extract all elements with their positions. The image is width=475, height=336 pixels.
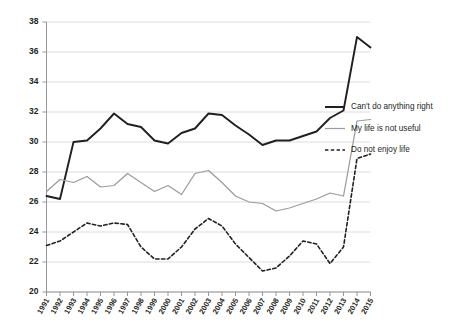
- y-axis-tick-label: 24: [29, 226, 39, 236]
- x-axis-tick-label: 2006: [238, 297, 254, 316]
- x-axis-tick-label: 2007: [251, 297, 267, 316]
- x-axis-tick-label: 2008: [265, 297, 281, 316]
- x-axis-tick-label: 2010: [292, 297, 308, 316]
- y-axis-tick-labels: 20222426283032343638: [29, 16, 39, 296]
- x-axis-tick-label: 1997: [116, 297, 132, 316]
- x-axis-tick-label: 1992: [49, 297, 65, 316]
- x-axis-tick-label: 2009: [278, 297, 294, 316]
- x-axis-tick-label: 1998: [130, 297, 146, 316]
- x-axis-tick-label: 2002: [184, 297, 200, 316]
- x-axis-tick-label: 1994: [76, 296, 93, 316]
- y-axis-tick-label: 20: [29, 286, 39, 296]
- y-tick-marks: [43, 22, 47, 292]
- x-axis-tick-label: 2014: [346, 296, 363, 316]
- legend-label-2[interactable]: Do not enjoy life: [351, 145, 410, 154]
- x-axis-tick-label: 2000: [157, 297, 173, 316]
- x-axis-tick-label: 1996: [103, 297, 119, 316]
- x-axis-tick-label: 2001: [170, 296, 187, 316]
- y-axis-tick-label: 30: [29, 136, 39, 146]
- y-axis-tick-label: 38: [29, 16, 39, 26]
- x-axis-tick-label: 2012: [319, 297, 335, 316]
- x-axis-tick-label: 2003: [197, 297, 213, 316]
- x-axis-tick-label: 2004: [211, 296, 228, 316]
- x-tick-marks: [47, 292, 371, 296]
- x-axis-tick-label: 1993: [62, 297, 78, 316]
- y-axis-tick-label: 22: [29, 256, 39, 266]
- y-axis-tick-label: 34: [29, 76, 39, 86]
- legend-label-0[interactable]: Can't do anything right: [351, 102, 433, 111]
- series-line-2: [47, 154, 371, 271]
- x-axis-tick-label: 1995: [89, 296, 106, 316]
- y-axis-tick-label: 32: [29, 106, 39, 116]
- x-axis-tick-label: 2015: [359, 296, 376, 316]
- x-axis-tick-label: 1999: [143, 297, 159, 316]
- y-axis-tick-label: 26: [29, 196, 39, 206]
- x-axis-tick-label: 2005: [224, 296, 241, 316]
- chart-container: 20222426283032343638 1991199219931994199…: [0, 0, 475, 336]
- data-series-group: [47, 37, 371, 271]
- x-axis-tick-label: 1991: [35, 296, 52, 316]
- y-axis-tick-label: 28: [29, 166, 39, 176]
- legend-label-1[interactable]: My life is not useful: [351, 124, 421, 133]
- series-line-0: [47, 37, 371, 199]
- chart-legend: Can't do anything rightMy life is not us…: [325, 102, 433, 154]
- x-axis-tick-labels: 1991199219931994199519961997199819992000…: [35, 296, 376, 316]
- line-chart: 20222426283032343638 1991199219931994199…: [0, 0, 475, 336]
- x-axis-tick-label: 2013: [332, 297, 348, 316]
- y-axis-tick-label: 36: [29, 46, 39, 56]
